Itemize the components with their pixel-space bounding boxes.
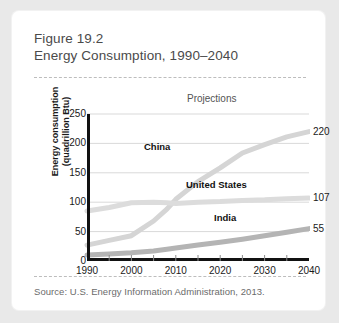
- series-label-united-states: United States: [186, 179, 247, 190]
- series-label-india: India: [214, 212, 236, 223]
- series-line-india: [87, 229, 309, 256]
- source-note: Source: U.S. Energy Information Administ…: [34, 286, 265, 297]
- chart-plot-area: [34, 85, 310, 271]
- figure-card: Figure 19.2 Energy Consumption, 1990–204…: [12, 11, 325, 310]
- energy-consumption-line-chart: Energy consumption (quadrillion Btu) 250…: [34, 85, 310, 271]
- projections-annotation: Projections: [187, 93, 236, 104]
- figure-title-block: Figure 19.2 Energy Consumption, 1990–204…: [34, 30, 238, 64]
- end-value-united-states: 107: [313, 192, 330, 203]
- end-value-india: 55: [313, 223, 324, 234]
- gridlines: [87, 114, 309, 232]
- divider-top: [34, 77, 306, 78]
- series-label-china: China: [144, 141, 170, 152]
- figure-number: Figure 19.2: [34, 30, 238, 47]
- divider-bottom: [34, 276, 306, 277]
- end-value-china: 220: [313, 126, 330, 137]
- page-title: Energy Consumption, 1990–2040: [34, 47, 238, 64]
- series-line-united-states: [87, 198, 309, 211]
